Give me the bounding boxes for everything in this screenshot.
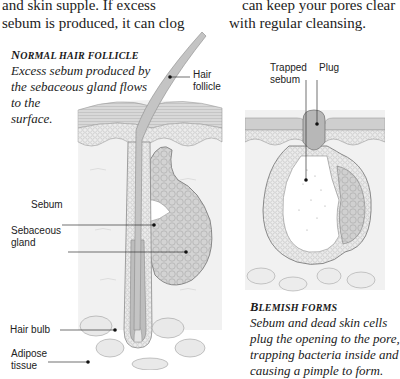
- body-line: and skin supple. If excess: [2, 0, 184, 14]
- body-text-left: and skin supple. If excess sebum is prod…: [2, 0, 184, 32]
- blemish-forms-illustration: [245, 80, 385, 300]
- label-sebaceous-gland: Sebaceous gland: [11, 225, 61, 249]
- label-sebum: Sebum: [31, 199, 63, 211]
- label-trapped-sebum: Trapped sebum: [270, 62, 307, 86]
- label-hair-follicle: Hair follicle: [193, 69, 221, 93]
- caption-body: Excess sebum produced by the sebaceous g…: [11, 63, 150, 127]
- body-line: can keep your pores clear: [229, 0, 395, 14]
- label-adipose-tissue: Adipose tissue: [11, 348, 47, 372]
- label-hair-bulb: Hair bulb: [10, 324, 50, 336]
- body-text-right: can keep your pores clear with regular c…: [229, 0, 395, 32]
- body-line: with regular cleansing.: [229, 14, 395, 32]
- caption-title: BLEMISH FORMS: [250, 300, 400, 315]
- caption-title: NORMAL HAIR FOLLICLE: [11, 48, 150, 63]
- caption-body: Sebum and dead skin cells plug the openi…: [250, 315, 400, 379]
- label-plug: Plug: [319, 62, 339, 74]
- normal-hair-follicle-caption: NORMAL HAIR FOLLICLE Excess sebum produc…: [11, 48, 150, 127]
- blemish-forms-caption: BLEMISH FORMS Sebum and dead skin cells …: [250, 300, 400, 379]
